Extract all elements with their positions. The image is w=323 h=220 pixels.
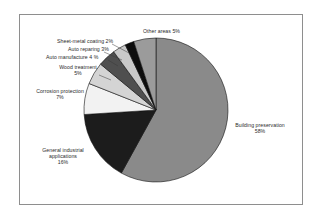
- slice-label-wood-treatment-name: Wood treatment: [59, 64, 97, 70]
- slice-label-general-industrial-line1: General industrial: [42, 147, 84, 153]
- slice-label-sheet-metal-coating: Sheet-metal coating 2%: [57, 38, 113, 44]
- pie-slice-group: [84, 38, 228, 182]
- slice-label-general-industrial-applications: General industrial applications 16%: [27, 147, 99, 166]
- chart-screenshot: Other areas 5% Sheet-metal coating 2% Au…: [0, 0, 323, 220]
- slice-label-corrosion-protection-value: 7%: [56, 94, 64, 100]
- slice-label-building-preservation-name: Building preservation: [235, 122, 285, 128]
- slice-label-auto-manufacture: Auto manufacture 4 %: [46, 54, 98, 60]
- slice-label-wood-treatment: Wood treatment 5%: [47, 64, 109, 76]
- slice-label-wood-treatment-value: 5%: [74, 70, 82, 76]
- slice-label-corrosion-protection-name: Corrosion protection: [36, 88, 84, 94]
- slice-label-building-preservation: Building preservation 58%: [222, 122, 298, 134]
- slice-label-building-preservation-value: 58%: [255, 128, 266, 134]
- slice-label-other-areas: Other areas 5%: [143, 28, 180, 34]
- slice-label-general-industrial-line2: applications: [49, 153, 77, 159]
- slice-label-general-industrial-value: 16%: [58, 159, 69, 165]
- slice-label-auto-reparing: Auto reparing 3%: [68, 46, 109, 52]
- slice-label-corrosion-protection: Corrosion protection 7%: [21, 88, 99, 100]
